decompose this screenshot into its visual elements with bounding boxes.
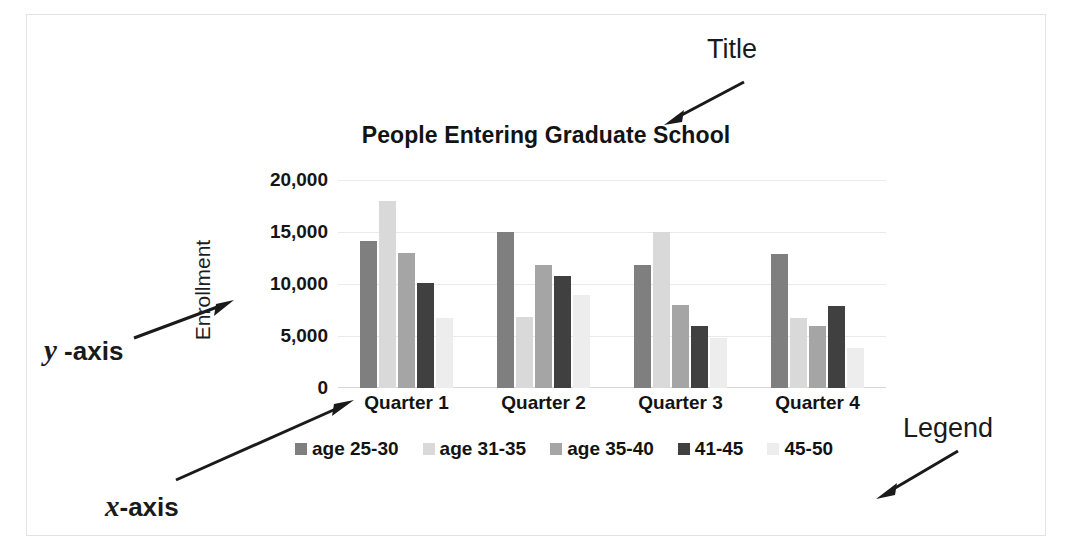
legend-swatch-icon — [550, 443, 562, 455]
legend-item: age 25-30 — [295, 438, 399, 460]
y-tick-label: 15,000 — [236, 221, 328, 243]
legend-label: age 31-35 — [440, 438, 527, 460]
bar — [710, 338, 727, 388]
x-axis-category-labels: Quarter 1 Quarter 2 Quarter 3 Quarter 4 — [338, 392, 886, 414]
bar — [691, 326, 708, 388]
annotation-xaxis-label: x-axis — [105, 490, 179, 523]
bar — [771, 254, 788, 388]
legend-item: 41-45 — [678, 438, 744, 460]
y-tick-label: 5,000 — [236, 325, 328, 347]
legend-label: age 35-40 — [567, 438, 654, 460]
y-tick-label: 20,000 — [236, 169, 328, 191]
legend-item: age 35-40 — [550, 438, 654, 460]
x-category-label: Quarter 1 — [342, 392, 471, 414]
bar — [436, 318, 453, 388]
annotation-xaxis-rest: -axis — [120, 492, 179, 522]
bar — [554, 276, 571, 388]
bar — [828, 306, 845, 388]
bar — [417, 283, 434, 388]
legend-item: age 31-35 — [423, 438, 527, 460]
chart-legend: age 25-30age 31-35age 35-4041-4545-50 — [234, 438, 894, 460]
y-axis-title: Enrollment — [191, 210, 215, 370]
bar-group — [616, 180, 745, 388]
chart-title: People Entering Graduate School — [196, 122, 896, 149]
bar — [497, 232, 514, 388]
bar — [653, 232, 670, 388]
bar — [398, 253, 415, 388]
annotation-title-label: Title — [707, 34, 757, 65]
y-tick-label: 0 — [236, 377, 328, 399]
bar — [809, 326, 826, 388]
bar — [847, 348, 864, 388]
annotation-legend-label: Legend — [903, 413, 993, 444]
x-category-label: Quarter 4 — [753, 392, 882, 414]
bar-group — [479, 180, 608, 388]
annotation-yaxis-rest: -axis — [57, 336, 124, 366]
legend-item: 45-50 — [767, 438, 833, 460]
x-category-label: Quarter 3 — [616, 392, 745, 414]
y-tick-label: 10,000 — [236, 273, 328, 295]
x-category-label: Quarter 2 — [479, 392, 608, 414]
legend-swatch-icon — [295, 443, 307, 455]
bar-group — [753, 180, 882, 388]
plot-area-wrapper: Enrollment 20,000 15,000 10,000 5,000 0 … — [196, 180, 896, 398]
annotation-xaxis-italic: x — [105, 490, 120, 522]
bar — [516, 317, 533, 388]
legend-swatch-icon — [423, 443, 435, 455]
bar — [535, 265, 552, 388]
legend-swatch-icon — [767, 443, 779, 455]
bar — [634, 265, 651, 388]
bar — [790, 318, 807, 388]
bar — [360, 241, 377, 388]
legend-label: 45-50 — [784, 438, 833, 460]
legend-label: age 25-30 — [312, 438, 399, 460]
bar — [573, 295, 590, 388]
legend-swatch-icon — [678, 443, 690, 455]
bar-groups — [338, 180, 886, 388]
bar — [379, 201, 396, 388]
annotation-yaxis-label: y -axis — [44, 334, 123, 367]
bar-chart: People Entering Graduate School Enrollme… — [196, 110, 896, 500]
bar — [672, 305, 689, 388]
bar-group — [342, 180, 471, 388]
legend-label: 41-45 — [695, 438, 744, 460]
chart-screenshot: Title Legend y -axis x-axis People Enter… — [0, 0, 1072, 555]
plot-area — [338, 180, 886, 388]
annotation-yaxis-italic: y — [44, 334, 57, 366]
y-axis-tick-labels: 20,000 15,000 10,000 5,000 0 — [234, 180, 328, 388]
